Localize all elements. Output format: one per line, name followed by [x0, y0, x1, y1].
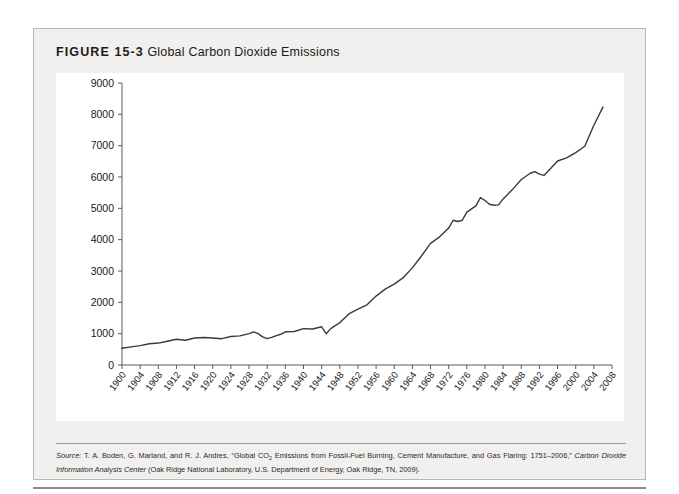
figure-title-text: Global Carbon Dioxide Emissions — [147, 45, 339, 59]
svg-text:1984: 1984 — [488, 369, 510, 392]
svg-text:5000: 5000 — [91, 202, 115, 214]
svg-text:2000: 2000 — [91, 296, 115, 308]
svg-text:8000: 8000 — [91, 108, 115, 120]
svg-text:1000: 1000 — [91, 327, 115, 339]
svg-text:7000: 7000 — [91, 139, 115, 151]
figure-card: FIGURE 15-3 Global Carbon Dioxide Emissi… — [33, 28, 646, 480]
svg-text:1992: 1992 — [524, 369, 546, 392]
svg-text:1980: 1980 — [470, 369, 492, 392]
svg-text:1940: 1940 — [288, 369, 310, 392]
chart-plot-panel: 0100020003000400050006000700080009000190… — [56, 73, 624, 421]
svg-text:1904: 1904 — [125, 369, 147, 392]
source-text: Source: T. A. Boden, G. Marland, and R. … — [56, 450, 626, 475]
svg-text:1924: 1924 — [215, 369, 237, 392]
svg-text:4000: 4000 — [91, 233, 115, 245]
emissions-line-chart: 0100020003000400050006000700080009000190… — [56, 73, 624, 421]
source-main: T. A. Boden, G. Marland, and R. J. Andre… — [81, 451, 574, 460]
svg-text:2004: 2004 — [578, 369, 600, 392]
svg-text:1952: 1952 — [342, 369, 364, 392]
svg-text:2008: 2008 — [597, 369, 619, 392]
svg-text:1936: 1936 — [270, 369, 292, 392]
svg-text:1968: 1968 — [415, 369, 437, 392]
source-tail: (Oak Ridge National Laboratory, U.S. Dep… — [146, 465, 420, 474]
svg-text:1960: 1960 — [379, 369, 401, 392]
svg-text:1932: 1932 — [252, 369, 274, 392]
source-note: Source: T. A. Boden, G. Marland, and R. … — [56, 443, 626, 475]
svg-text:1948: 1948 — [324, 369, 346, 392]
svg-text:1912: 1912 — [161, 369, 183, 392]
svg-text:6000: 6000 — [91, 171, 115, 183]
svg-text:3000: 3000 — [91, 265, 115, 277]
svg-text:2000: 2000 — [560, 369, 582, 392]
svg-text:1956: 1956 — [361, 369, 383, 392]
svg-text:1908: 1908 — [143, 369, 165, 392]
figure-title: FIGURE 15-3 Global Carbon Dioxide Emissi… — [56, 45, 340, 59]
svg-text:1976: 1976 — [451, 369, 473, 392]
svg-text:9000: 9000 — [91, 77, 115, 89]
svg-text:1996: 1996 — [542, 369, 564, 392]
figure-number-label: FIGURE 15-3 — [56, 45, 144, 59]
svg-text:0: 0 — [108, 359, 114, 371]
page-bottom-rule — [33, 487, 646, 489]
svg-text:1928: 1928 — [234, 369, 256, 392]
svg-text:1920: 1920 — [197, 369, 219, 392]
svg-text:1900: 1900 — [107, 369, 129, 392]
svg-text:1944: 1944 — [306, 369, 328, 392]
svg-text:1972: 1972 — [433, 369, 455, 392]
svg-text:1988: 1988 — [506, 369, 528, 392]
svg-text:1964: 1964 — [397, 369, 419, 392]
svg-text:1916: 1916 — [179, 369, 201, 392]
source-prefix: Source: — [56, 451, 81, 460]
source-divider — [56, 443, 626, 444]
